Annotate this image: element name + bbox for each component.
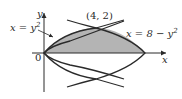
label-pointer-arrow — [38, 30, 53, 37]
x-axis-label: x — [162, 54, 168, 65]
origin-label: 0 — [35, 52, 41, 63]
left-curve-label: x = y2 — [10, 21, 41, 33]
left-curve-label-exponent: 2 — [35, 21, 41, 29]
right-curve-label-exponent: 2 — [172, 27, 178, 35]
right-curve-label-base: x = 8 − y — [126, 28, 173, 39]
point-label: (4, 2) — [86, 10, 113, 21]
y-axis-label: y — [36, 8, 43, 19]
right-curve-label: x = 8 − y2 — [126, 27, 178, 39]
curve-left-lower — [44, 53, 96, 79]
parabola-region-diagram: y x 0 (4, 2) x = y2 x = 8 − y2 — [0, 0, 182, 99]
curve-left-lower-extension — [96, 79, 124, 87]
left-curve-label-base: x = y — [10, 22, 36, 33]
